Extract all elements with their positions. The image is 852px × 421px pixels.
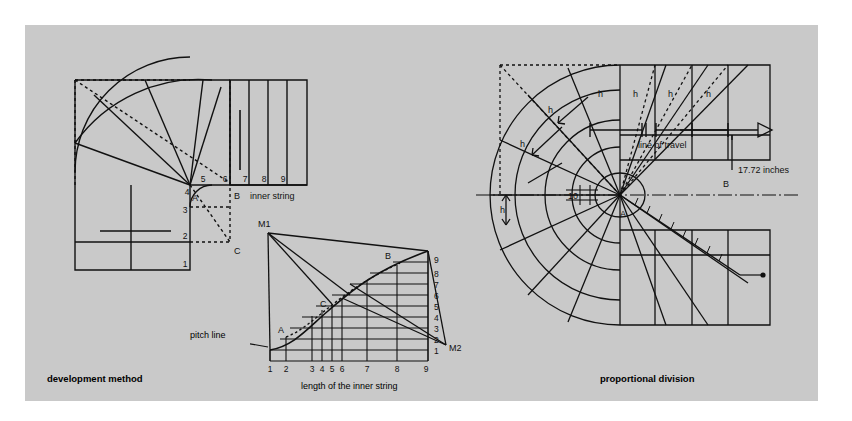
tread-number-8: 8 [262, 174, 267, 184]
inner-string-x-tick-3: 3 [310, 364, 315, 374]
figure-panel: 1 2 3 4 5 6 7 8 9 A B C inner string dev… [25, 25, 818, 401]
inner-string-y-tick-6: 6 [434, 291, 439, 301]
h-label-2: h [520, 139, 525, 149]
tread-number-6: 6 [223, 174, 228, 184]
inner-string-x-tick-7: 7 [365, 364, 370, 374]
h-label-5: h [633, 89, 638, 99]
pole-label-m2: M2 [449, 343, 462, 353]
h-label-4: h [598, 89, 603, 99]
tread-number-9: 9 [281, 174, 286, 184]
inner-string-x-tick-4: 4 [320, 364, 325, 374]
inner-string-y-tick-7: 7 [434, 280, 439, 290]
h-label-3: h [548, 105, 553, 115]
tread-number-4: 4 [185, 187, 190, 197]
h-label-1: h [500, 205, 505, 215]
figure-root: 1 2 3 4 5 6 7 8 9 A B C inner string dev… [0, 0, 852, 421]
h-label-6: h [668, 89, 673, 99]
going-dimension-label: 17.72 inches [738, 165, 790, 175]
inner-string-x-tick-6: 6 [340, 364, 345, 374]
inner-string-y-tick-1: 1 [434, 346, 439, 356]
proportional-division-diagram: h h h h h h h 10 A B line of travel 17.7… [470, 35, 810, 375]
line-of-travel-label: line of travel [638, 140, 687, 150]
proportional-point-a: A [620, 209, 626, 219]
proportional-division-caption: proportional division [600, 373, 694, 384]
tread-number-3: 3 [183, 205, 188, 215]
inner-string-x-tick-5: 5 [330, 364, 335, 374]
inner-string-x-tick-2: 2 [284, 364, 289, 374]
inner-string-label: inner string [250, 191, 295, 201]
inner-string-y-tick-5: 5 [434, 302, 439, 312]
proportional-point-b: B [723, 179, 729, 189]
center-number-label: 10 [568, 191, 578, 201]
tread-number-7: 7 [243, 174, 248, 184]
pitch-line-label: pitch line [190, 330, 226, 340]
inner-string-x-tick-1: 1 [268, 364, 273, 374]
point-label-b: B [234, 191, 240, 201]
h-label-7: h [706, 89, 711, 99]
inner-string-diagram: 1 2 3 4 5 6 7 8 9 1 2 3 4 5 6 7 8 9 [250, 215, 470, 375]
inner-string-y-tick-9: 9 [434, 255, 439, 265]
tread-number-2: 2 [183, 231, 188, 241]
tread-number-1: 1 [183, 259, 188, 269]
inner-string-point-c: C [320, 299, 327, 309]
inner-string-point-b: B [385, 251, 391, 261]
inner-string-point-a: A [278, 325, 284, 335]
inner-string-x-tick-8: 8 [395, 364, 400, 374]
development-method-caption: development method [47, 373, 143, 384]
inner-string-y-tick-3: 3 [434, 324, 439, 334]
inner-string-y-tick-4: 4 [434, 313, 439, 323]
tread-number-5: 5 [201, 174, 206, 184]
inner-string-x-tick-9: 9 [424, 364, 429, 374]
pole-label-m1: M1 [258, 219, 271, 229]
inner-string-caption: length of the inner string [301, 381, 398, 391]
point-label-a: A [192, 193, 198, 203]
inner-string-y-tick-2: 2 [434, 335, 439, 345]
inner-string-y-tick-8: 8 [434, 269, 439, 279]
point-label-c: C [234, 246, 241, 256]
